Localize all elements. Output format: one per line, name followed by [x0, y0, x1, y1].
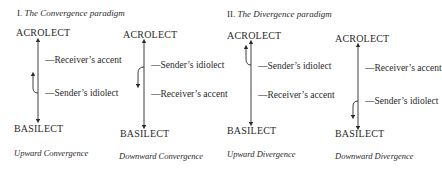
basilect-label: BASILECT	[227, 125, 276, 136]
diagram-caption: Downward Divergence	[335, 151, 413, 161]
senders-idiolect-label: —Sender’s idiolect	[258, 61, 331, 71]
acrolect-label: ACROLECT	[227, 30, 281, 41]
basilect-label: BASILECT	[335, 128, 384, 139]
upward-shift-arrow	[33, 74, 38, 93]
acrolect-label: ACROLECT	[123, 29, 177, 40]
receivers-accent-label: —Receiver’s accent	[258, 90, 335, 100]
basilect-label: BASILECT	[120, 128, 169, 139]
receivers-accent-label: —Receiver’s accent	[365, 63, 442, 73]
diagram-caption: Upward Divergence	[227, 149, 296, 159]
downward-shift-arrow	[353, 101, 358, 117]
basilect-label: BASILECT	[14, 123, 63, 134]
diagram-caption: Downward Convergence	[119, 151, 203, 161]
receivers-accent-label: —Receiver’s accent	[151, 89, 228, 99]
diagram-caption: Upward Convergence	[14, 148, 88, 158]
senders-idiolect-label: —Sender’s idiolect	[45, 88, 118, 98]
acrolect-label: ACROLECT	[335, 33, 389, 44]
senders-idiolect-label: —Sender’s idiolect	[365, 96, 438, 106]
senders-idiolect-label: —Sender’s idiolect	[151, 60, 224, 70]
upward-shift-arrow	[246, 47, 251, 65]
receivers-accent-label: —Receiver’s accent	[45, 55, 122, 65]
acrolect-label: ACROLECT	[16, 27, 70, 38]
downward-shift-arrow	[138, 67, 144, 86]
